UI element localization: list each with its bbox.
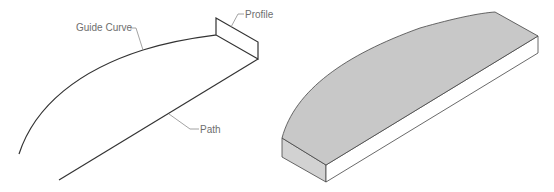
profile-leader bbox=[231, 14, 244, 27]
guide-curve-label: Guide Curve bbox=[76, 22, 133, 33]
path-leader bbox=[169, 114, 199, 129]
profile-label: Profile bbox=[245, 9, 274, 20]
sweep-diagram: Guide Curve Profile Path bbox=[0, 0, 554, 192]
swept-solid bbox=[282, 12, 538, 182]
guide-curve bbox=[19, 35, 216, 154]
sweep-setup: Guide Curve Profile Path bbox=[19, 9, 274, 180]
profile-rectangle bbox=[216, 18, 258, 59]
path-line bbox=[59, 59, 258, 180]
solid-top-face bbox=[282, 12, 538, 165]
path-label: Path bbox=[200, 124, 221, 135]
